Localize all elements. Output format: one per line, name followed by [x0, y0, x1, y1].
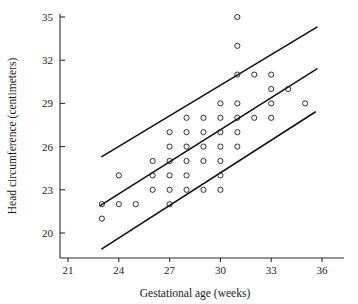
x-tick-label: 33	[266, 264, 278, 276]
data-point	[99, 216, 104, 221]
data-point	[302, 101, 307, 106]
data-point	[167, 144, 172, 149]
y-tick-label: 26	[42, 141, 54, 153]
data-point	[235, 43, 240, 48]
data-point	[184, 115, 189, 120]
data-point	[201, 187, 206, 192]
y-tick-label: 20	[42, 227, 54, 239]
data-point-group	[99, 14, 307, 221]
data-point	[150, 187, 155, 192]
data-point	[133, 202, 138, 207]
data-point	[269, 101, 274, 106]
x-tick-label: 24	[113, 264, 125, 276]
lower-bound-line	[102, 112, 315, 249]
data-point	[218, 158, 223, 163]
y-tick-label: 23	[42, 184, 54, 196]
chart-canvas: 212427303336202326293235Gestational age …	[0, 0, 358, 304]
data-point	[150, 158, 155, 163]
data-point	[269, 72, 274, 77]
y-tick-label: 29	[42, 97, 54, 109]
data-point	[235, 130, 240, 135]
x-axis-title: Gestational age (weeks)	[140, 287, 251, 300]
data-point	[167, 130, 172, 135]
data-point	[167, 187, 172, 192]
data-point	[252, 72, 257, 77]
data-point	[218, 115, 223, 120]
data-point	[116, 202, 121, 207]
data-point	[235, 101, 240, 106]
y-tick-label: 32	[42, 54, 53, 66]
data-point	[269, 115, 274, 120]
data-point	[235, 144, 240, 149]
data-point	[218, 144, 223, 149]
data-point	[150, 173, 155, 178]
x-tick-label: 21	[63, 264, 74, 276]
data-point	[116, 173, 121, 178]
data-point	[218, 101, 223, 106]
data-point	[269, 86, 274, 91]
data-point	[201, 130, 206, 135]
data-point	[201, 115, 206, 120]
y-axis-title: Head circumference (centimeters)	[6, 58, 19, 215]
y-tick-label: 35	[42, 11, 54, 23]
data-point	[201, 144, 206, 149]
data-point	[184, 130, 189, 135]
x-tick-label: 36	[317, 264, 329, 276]
data-point	[184, 158, 189, 163]
data-point	[218, 187, 223, 192]
data-point	[184, 144, 189, 149]
data-point	[184, 187, 189, 192]
data-point	[201, 158, 206, 163]
x-tick-label: 27	[164, 264, 176, 276]
data-point	[235, 14, 240, 19]
data-point	[252, 115, 257, 120]
data-point	[167, 173, 172, 178]
scatter-plot-figure: 212427303336202326293235Gestational age …	[0, 0, 358, 304]
data-point	[184, 173, 189, 178]
x-tick-label: 30	[215, 264, 227, 276]
